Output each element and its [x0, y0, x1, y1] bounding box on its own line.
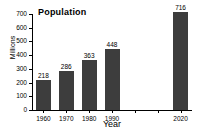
y-tick: [29, 83, 32, 84]
bar: [105, 49, 120, 110]
x-tick: [66, 110, 67, 113]
bar-value-label: 716: [175, 4, 186, 11]
bar: [36, 80, 51, 110]
y-tick: [29, 14, 32, 15]
y-tick-label: 600: [16, 25, 27, 32]
y-tick: [29, 96, 32, 97]
y-tick-label: 400: [16, 52, 27, 59]
y-tick-label: 100: [16, 93, 27, 100]
bar: [173, 12, 188, 110]
y-tick: [29, 28, 32, 29]
y-tick: [29, 110, 32, 111]
y-tick-label: 0: [23, 107, 27, 114]
x-tick: [158, 110, 159, 113]
y-tick: [29, 41, 32, 42]
y-tick-label: 200: [16, 80, 27, 87]
y-tick-label: 500: [16, 38, 27, 45]
bar-value-label: 218: [38, 72, 49, 79]
bar-value-label: 363: [84, 52, 95, 59]
bar: [59, 71, 74, 110]
y-axis-label: Millions: [9, 22, 16, 74]
x-tick: [89, 110, 90, 113]
y-tick-label: 300: [16, 66, 27, 73]
x-tick: [112, 110, 113, 113]
y-tick: [29, 69, 32, 70]
population-bar-chart: Population Millions 01002003004005006007…: [0, 0, 197, 137]
x-tick: [43, 110, 44, 113]
y-tick: [29, 55, 32, 56]
x-tick: [181, 110, 182, 113]
y-tick-label: 700: [16, 11, 27, 18]
bar-value-label: 448: [107, 41, 118, 48]
x-axis-label: Year: [32, 119, 192, 129]
bar: [82, 60, 97, 110]
plot-area: 0100200300400500600700 19601970198019902…: [32, 14, 192, 110]
x-tick: [135, 110, 136, 113]
y-axis-line: [32, 14, 33, 110]
bar-value-label: 286: [61, 63, 72, 70]
